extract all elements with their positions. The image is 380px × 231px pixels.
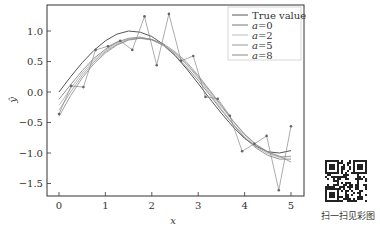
- x-tick-label: 5: [288, 200, 294, 211]
- x-tick-label: 0: [56, 200, 62, 211]
- data-point: [204, 96, 207, 99]
- qr-code[interactable]: [325, 160, 367, 202]
- qr-caption: 扫一扫见彩图: [316, 209, 380, 222]
- data-point: [58, 113, 61, 116]
- data-point: [131, 49, 134, 52]
- data-point: [265, 135, 268, 138]
- data-point: [180, 60, 183, 63]
- data-point: [94, 49, 97, 52]
- data-point: [253, 143, 256, 146]
- x-tick-label: 2: [149, 200, 155, 211]
- data-point: [278, 189, 281, 192]
- data-point: [82, 86, 85, 89]
- data-point: [216, 97, 219, 100]
- y-tick-label: 1.0: [27, 26, 43, 37]
- qr-code-icon: [325, 160, 367, 202]
- data-point: [107, 45, 110, 48]
- y-tick-label: 0.0: [27, 87, 43, 98]
- data-point: [241, 150, 244, 153]
- x-axis-label: x: [170, 215, 176, 226]
- data-point: [119, 40, 122, 43]
- x-tick-label: 3: [195, 200, 201, 211]
- y-tick-label: −1.5: [19, 178, 43, 189]
- legend-label: a=8: [252, 50, 273, 61]
- y-axis: 1.00.50.0−0.5−1.0−1.5: [19, 26, 51, 190]
- data-point: [229, 115, 232, 118]
- y-tick-label: −0.5: [19, 117, 43, 128]
- legend: True valuea=0a=2a=5a=8: [228, 7, 306, 61]
- y-axis-label: ŷ: [7, 97, 18, 104]
- chart: 012345 1.00.50.0−0.5−1.0−1.5 x ŷ True va…: [0, 0, 380, 231]
- data-point: [168, 13, 171, 16]
- x-tick-label: 4: [241, 200, 247, 211]
- y-tick-label: 0.5: [27, 56, 43, 67]
- data-point: [155, 64, 158, 67]
- y-tick-label: −1.0: [19, 148, 43, 159]
- x-tick-label: 1: [102, 200, 108, 211]
- x-axis: 012345: [56, 192, 294, 211]
- data-point: [143, 15, 146, 18]
- data-point: [70, 85, 73, 88]
- data-point: [290, 125, 293, 128]
- data-point: [192, 55, 195, 58]
